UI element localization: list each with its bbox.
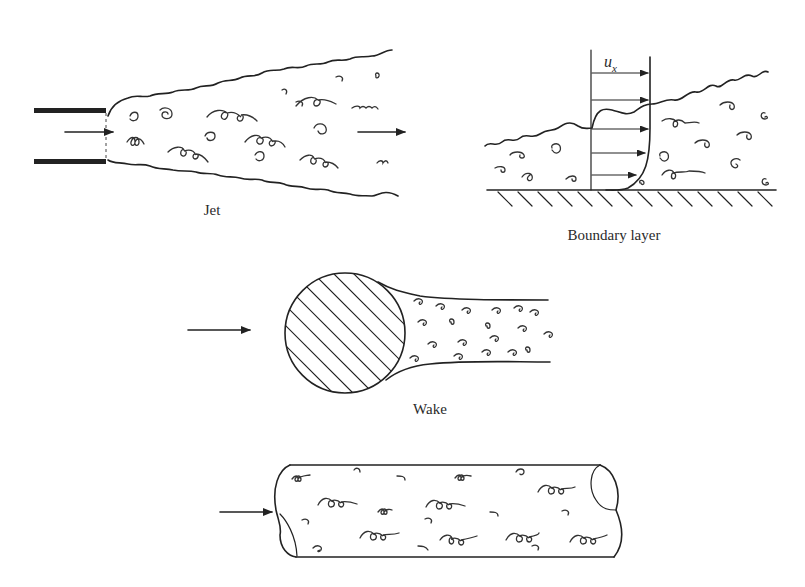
pipe-flow-panel: [220, 465, 622, 557]
jet-label: Jet: [204, 202, 221, 218]
wake-upper-boundary: [378, 282, 548, 300]
jet-panel: Jet: [34, 50, 405, 218]
boundary-layer-label: Boundary layer: [568, 227, 661, 243]
pipe-outlet-end: [600, 465, 622, 557]
pipe-outlet-ellipse: [591, 465, 616, 510]
pipe-eddies: [292, 468, 607, 551]
velocity-symbol: ux: [604, 53, 617, 74]
pipe-inlet-ellipse: [280, 514, 297, 556]
nozzle-upper-wall: [34, 108, 106, 113]
nozzle-lower-wall: [34, 159, 106, 164]
jet-upper-boundary: [108, 50, 392, 116]
wake-label: Wake: [413, 401, 447, 417]
jet-lower-boundary: [108, 160, 398, 196]
wake-panel: Wake: [188, 220, 552, 420]
velocity-profile-curve: [606, 57, 650, 190]
boundary-layer-panel: ux Boundary layer: [485, 50, 776, 243]
wake-lower-boundary: [386, 362, 550, 381]
turbulent-flows-diagram: Jet ux: [0, 0, 805, 587]
cylinder-hatching: [190, 220, 490, 420]
wall-hatching: [498, 192, 772, 206]
boundary-layer-eddies: [495, 102, 768, 185]
jet-eddies: [127, 73, 388, 168]
wake-eddies: [410, 299, 552, 361]
boundary-layer-edge: [485, 71, 768, 146]
cylinder: [285, 273, 405, 393]
